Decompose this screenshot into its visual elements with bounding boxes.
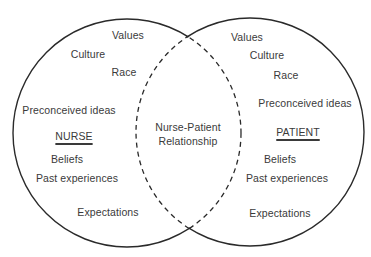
nurse-culture-label: Culture bbox=[71, 48, 106, 60]
patient-title: PATIENT bbox=[276, 126, 319, 138]
patient-past-experiences-label: Past experiences bbox=[246, 172, 328, 184]
nurse-expectations-label: Expectations bbox=[77, 206, 138, 218]
patient-preconceived-ideas-label: Preconceived ideas bbox=[258, 97, 351, 109]
patient-beliefs-label: Beliefs bbox=[264, 153, 296, 165]
patient-culture-label: Culture bbox=[250, 49, 285, 61]
nurse-past-experiences-label: Past experiences bbox=[36, 172, 118, 184]
relationship-label-line2: Relationship bbox=[159, 135, 218, 147]
relationship-label-line1: Nurse-Patient bbox=[155, 121, 221, 133]
nurse-preconceived-ideas-label: Preconceived ideas bbox=[22, 104, 115, 116]
nurse-race-label: Race bbox=[112, 66, 137, 78]
nurse-title: NURSE bbox=[55, 130, 92, 142]
patient-values-label: Values bbox=[231, 31, 263, 43]
venn-diagram: Values Culture Race Preconceived ideas N… bbox=[0, 0, 371, 257]
patient-race-label: Race bbox=[274, 69, 299, 81]
nurse-beliefs-label: Beliefs bbox=[51, 153, 83, 165]
patient-expectations-label: Expectations bbox=[249, 207, 310, 219]
nurse-values-label: Values bbox=[112, 29, 144, 41]
